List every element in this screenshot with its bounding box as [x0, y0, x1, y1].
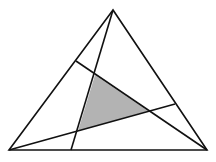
- triangle-cevian-diagram: [0, 0, 216, 162]
